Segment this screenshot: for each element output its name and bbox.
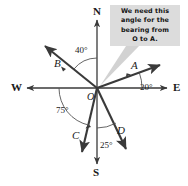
ray-label-c: C xyxy=(72,130,79,141)
figure-canvas: N S E W O B A C D 40° 20° 75° 25° We nee… xyxy=(0,0,188,186)
ray-label-d: D xyxy=(117,125,125,136)
compass-label-west: W xyxy=(11,82,22,93)
callout-text: We need thisangle for thebearing fromO t… xyxy=(119,7,171,43)
angle-label-25: 25° xyxy=(100,141,113,150)
callout-box: We need thisangle for thebearing fromO t… xyxy=(110,5,180,46)
compass-label-north: N xyxy=(93,6,101,17)
compass-label-south: S xyxy=(93,167,99,178)
ray-label-a: A xyxy=(131,60,138,71)
origin-label: O xyxy=(87,92,94,102)
ray-label-b: B xyxy=(54,58,61,69)
angle-label-40: 40° xyxy=(75,46,88,55)
angle-label-75: 75° xyxy=(56,106,69,115)
angle-arc-40 xyxy=(74,58,97,69)
ray-b-mid-arrow xyxy=(61,67,66,72)
ray-b xyxy=(45,46,97,88)
compass-label-east: E xyxy=(173,82,180,93)
angle-label-20: 20° xyxy=(140,83,153,92)
